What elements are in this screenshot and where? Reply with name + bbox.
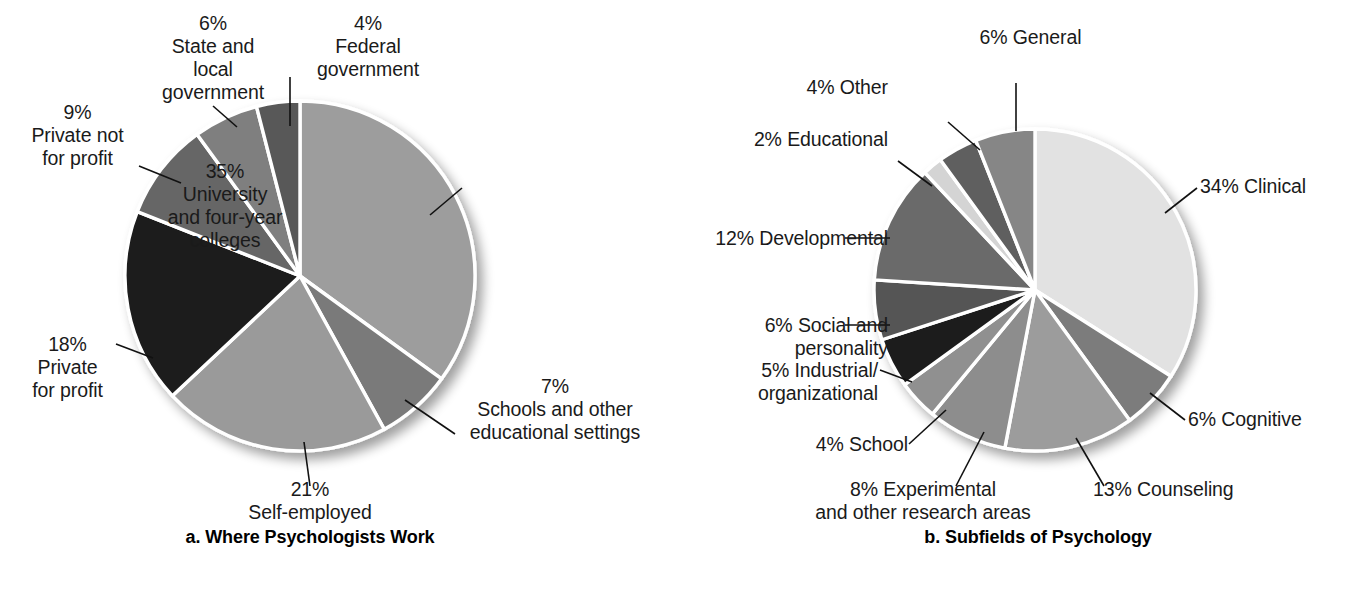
leader-line	[909, 410, 946, 444]
label-developmental: 12% Developmental	[688, 227, 888, 250]
label-university-colleges: 35% University and four-year colleges	[150, 160, 300, 252]
label-industrial-organizational: 5% Industrial/ organizational	[698, 359, 878, 405]
caption-panel-b: b. Subfields of Psychology	[858, 527, 1218, 548]
pie-b-wedges	[874, 129, 1196, 451]
caption-panel-a: a. Where Psychologists Work	[130, 527, 490, 548]
label-state-local-government: 6% State and local government	[128, 12, 298, 104]
psychology-pie-figure: 35% University and four-year colleges 7%…	[0, 0, 1356, 603]
label-school: 4% School	[748, 433, 908, 456]
label-clinical: 34% Clinical	[1200, 175, 1356, 198]
pie-a-slices	[124, 100, 476, 452]
label-private-not-for-profit: 9% Private not for profit	[10, 101, 145, 170]
label-other: 4% Other	[738, 76, 888, 99]
label-schools-educational: 7% Schools and other educational setting…	[440, 375, 670, 444]
leader-line	[1150, 393, 1185, 420]
label-private-for-profit: 18% Private for profit	[10, 333, 125, 402]
panel-where-psychologists-work: 35% University and four-year colleges 7%…	[0, 0, 678, 603]
label-social-personality: 6% Social and personality	[698, 314, 888, 360]
label-cognitive: 6% Cognitive	[1188, 408, 1356, 431]
pie-a-wedges	[125, 101, 475, 451]
label-experimental-research: 8% Experimental and other research areas	[768, 478, 1078, 524]
label-federal-government: 4% Federal government	[288, 12, 448, 81]
label-counseling: 13% Counseling	[1093, 478, 1293, 501]
label-self-employed: 21% Self-employed	[215, 478, 405, 524]
pie-b-slices	[873, 128, 1197, 452]
label-educational: 2% Educational	[698, 128, 888, 151]
label-general: 6% General	[933, 26, 1128, 49]
panel-subfields-of-psychology: 34% Clinical 6% Cognitive 13% Counseling…	[678, 0, 1356, 603]
